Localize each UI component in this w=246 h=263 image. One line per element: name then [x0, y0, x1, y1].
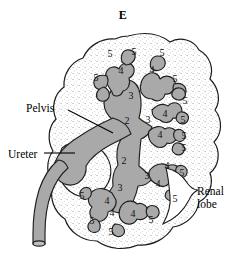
kidney-diagram	[0, 0, 246, 263]
callout-ureter: Ureter	[8, 148, 37, 161]
panel-label: E	[0, 8, 246, 23]
callout-renal-lobe: Renal lobe	[197, 185, 224, 210]
callout-pelvis: Pelvis	[26, 102, 54, 115]
